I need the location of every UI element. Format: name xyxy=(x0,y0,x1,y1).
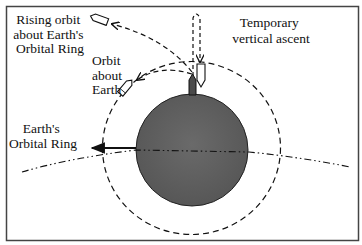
orbital-ring-diagram: Rising orbit about Earth's Orbital Ring … xyxy=(0,0,362,245)
label-temporary-ascent: Temporary vertical ascent xyxy=(232,15,310,46)
label-orbit-about-earth: Orbit about Earth xyxy=(92,53,125,97)
label-rising-orbit: Rising orbit about Earth's Orbital Ring xyxy=(13,12,87,56)
